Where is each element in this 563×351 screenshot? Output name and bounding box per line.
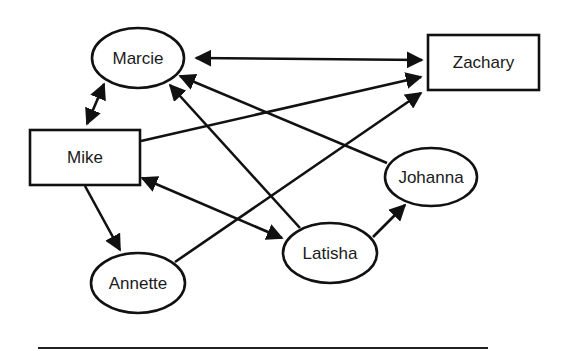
- node-johanna: Johanna: [385, 148, 477, 206]
- node-mike: Mike: [30, 130, 140, 185]
- node-zachary: Zachary: [428, 35, 539, 90]
- node-mike-label: Mike: [67, 148, 103, 167]
- node-marcie: Marcie: [92, 28, 184, 88]
- node-annette: Annette: [91, 253, 185, 313]
- edge-mike-to-zachary-arrow: [141, 77, 421, 141]
- edge-latisha-to-johanna-arrow: [373, 205, 405, 237]
- node-zachary-label: Zachary: [453, 53, 515, 72]
- node-johanna-label: Johanna: [398, 168, 464, 187]
- network-diagram: MarcieZacharyMikeJohannaLatishaAnnette: [0, 0, 563, 351]
- edge-mike-to-annette-arrow: [85, 186, 120, 250]
- node-marcie-label: Marcie: [112, 49, 163, 68]
- edge-johanna-to-marcie-arrow: [180, 76, 387, 163]
- node-latisha: Latisha: [283, 223, 377, 283]
- node-latisha-label: Latisha: [303, 244, 358, 263]
- edge-latisha-to-marcie-arrow: [170, 85, 300, 228]
- nodes-layer: MarcieZacharyMikeJohannaLatishaAnnette: [30, 28, 539, 313]
- node-annette-label: Annette: [109, 274, 168, 293]
- edge-mike-to-marcie-arrow: [87, 84, 104, 124]
- edge-marcie-to-zachary-arrow: [196, 58, 422, 60]
